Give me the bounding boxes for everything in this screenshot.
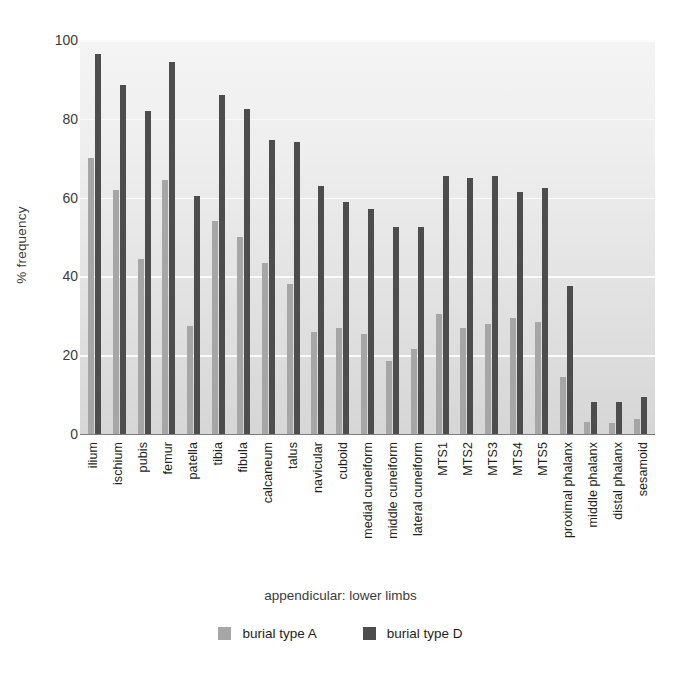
x-tick-label: MTS3 — [486, 442, 500, 476]
x-tick-label-cell: pubis — [130, 438, 155, 588]
bar-burial-type-d — [244, 109, 250, 434]
bar-group — [479, 40, 504, 434]
bar-burial-type-d — [467, 178, 473, 434]
x-tick-label: talus — [286, 442, 300, 469]
bar-burial-type-a — [436, 314, 442, 434]
bar-burial-type-a — [361, 334, 367, 434]
x-tick-label: calcaneum — [261, 442, 275, 503]
x-tick-label: sesamoid — [636, 442, 650, 496]
x-tick-label-cell: fibula — [230, 438, 255, 588]
x-tick-label-cell: MTS3 — [480, 438, 505, 588]
bar-burial-type-d — [120, 85, 126, 434]
x-tick-label-cell: patella — [180, 438, 205, 588]
legend-item[interactable]: burial type A — [218, 626, 316, 641]
bar-burial-type-a — [411, 349, 417, 434]
x-tick-label-cell: calcaneum — [255, 438, 280, 588]
bar-group — [579, 40, 604, 434]
x-tick-label: pubis — [136, 442, 150, 472]
legend-swatch-icon — [363, 627, 376, 640]
bar-group — [529, 40, 554, 434]
bar-chart-figure: % frequency 020406080100 iliumischiumpub… — [0, 0, 681, 676]
legend-swatch-icon — [218, 627, 231, 640]
bar-group — [330, 40, 355, 434]
x-tick-label-cell: femur — [155, 438, 180, 588]
x-tick-label-cell: MTS2 — [455, 438, 480, 588]
bar-burial-type-d — [219, 95, 225, 434]
x-tick-label: femur — [161, 442, 175, 474]
legend-item[interactable]: burial type D — [363, 626, 463, 641]
bar-burial-type-a — [535, 322, 541, 434]
bar-burial-type-d — [641, 397, 647, 434]
bar-burial-type-d — [443, 176, 449, 434]
x-tick-label-cell: navicular — [305, 438, 330, 588]
x-axis-tick-labels: iliumischiumpubisfemurpatellatibiafibula… — [80, 438, 655, 588]
bar-burial-type-a — [311, 332, 317, 434]
x-tick-label: fibula — [236, 442, 250, 472]
x-tick-label: tibia — [211, 442, 225, 465]
bar-group — [256, 40, 281, 434]
x-tick-label-cell: ischium — [105, 438, 130, 588]
x-tick-label: patella — [186, 442, 200, 480]
x-tick-label-cell: MTS1 — [430, 438, 455, 588]
x-tick-label: medial cuneiform — [361, 442, 375, 539]
bar-burial-type-d — [567, 286, 573, 434]
x-tick-label-cell: proximal phalanx — [555, 438, 580, 588]
y-tick-label: 40 — [40, 268, 78, 284]
x-tick-label: distal phalanx — [611, 442, 625, 520]
bar-group — [281, 40, 306, 434]
bar-burial-type-d — [591, 402, 597, 434]
x-tick-label-cell: lateral cuneiform — [405, 438, 430, 588]
x-axis-line — [80, 434, 655, 435]
bar-group — [132, 40, 157, 434]
bar-burial-type-d — [294, 142, 300, 434]
y-axis-tick-labels: 020406080100 — [40, 40, 78, 434]
x-tick-label-cell: cuboid — [330, 438, 355, 588]
x-tick-label: middle phalanx — [586, 442, 600, 527]
bar-group — [554, 40, 579, 434]
x-tick-label-cell: middle cuneiform — [380, 438, 405, 588]
bar-burial-type-a — [113, 190, 119, 434]
bar-group — [181, 40, 206, 434]
bar-burial-type-a — [336, 328, 342, 434]
x-tick-label: cuboid — [336, 442, 350, 479]
bar-groups — [80, 40, 655, 434]
bar-burial-type-d — [194, 196, 200, 434]
x-tick-label: middle cuneiform — [386, 442, 400, 539]
x-tick-label-cell: tibia — [205, 438, 230, 588]
bar-burial-type-a — [88, 158, 94, 434]
bar-burial-type-d — [318, 186, 324, 434]
y-tick-label: 20 — [40, 347, 78, 363]
x-tick-label-cell: medial cuneiform — [355, 438, 380, 588]
bar-group — [82, 40, 107, 434]
bar-burial-type-a — [212, 221, 218, 434]
bar-burial-type-d — [492, 176, 498, 434]
x-tick-label: MTS2 — [461, 442, 475, 476]
bar-burial-type-d — [517, 192, 523, 434]
bar-burial-type-a — [584, 422, 590, 434]
y-axis-title: % frequency — [14, 185, 29, 305]
bar-burial-type-d — [145, 111, 151, 434]
bar-group — [206, 40, 231, 434]
bar-burial-type-a — [187, 326, 193, 434]
bar-group — [355, 40, 380, 434]
x-tick-label: MTS1 — [436, 442, 450, 476]
bar-burial-type-d — [393, 227, 399, 434]
x-tick-label-cell: MTS4 — [505, 438, 530, 588]
bar-group — [628, 40, 653, 434]
x-tick-label: lateral cuneiform — [411, 442, 425, 536]
bar-burial-type-a — [237, 237, 243, 434]
y-tick-label: 80 — [40, 111, 78, 127]
bar-burial-type-a — [510, 318, 516, 434]
x-tick-label: MTS5 — [536, 442, 550, 476]
bar-group — [603, 40, 628, 434]
bar-burial-type-d — [95, 54, 101, 434]
x-tick-label: MTS4 — [511, 442, 525, 476]
bar-group — [107, 40, 132, 434]
legend-label: burial type D — [387, 626, 463, 641]
x-tick-label: proximal phalanx — [561, 442, 575, 538]
bar-burial-type-d — [542, 188, 548, 434]
bar-group — [305, 40, 330, 434]
plot-area — [80, 40, 655, 434]
bar-burial-type-a — [634, 419, 640, 434]
bar-burial-type-a — [560, 377, 566, 434]
